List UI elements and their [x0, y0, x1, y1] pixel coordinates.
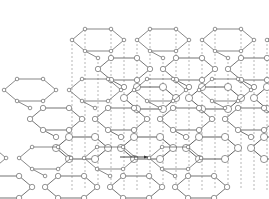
atom-node — [104, 144, 111, 151]
atom-node — [235, 105, 240, 110]
atom-node — [93, 106, 97, 110]
atom-node — [109, 49, 113, 53]
atom-node — [261, 105, 266, 110]
lattice-diagram — [0, 0, 269, 199]
atom-node — [159, 184, 164, 189]
atom-node — [160, 145, 164, 149]
atom-node — [95, 145, 99, 149]
atom-node — [134, 77, 139, 82]
atom-node — [81, 173, 86, 178]
atom-node — [144, 116, 149, 121]
atom-node — [212, 66, 217, 71]
atom-node — [263, 83, 269, 90]
atom-node — [221, 155, 228, 162]
atom-node — [156, 155, 163, 162]
atom-node — [148, 49, 152, 53]
atom-node — [145, 77, 149, 81]
atom-node — [121, 167, 125, 171]
atom-node — [70, 38, 74, 42]
atom-node — [158, 106, 162, 110]
atom-node — [16, 173, 21, 178]
atom-node — [40, 105, 45, 110]
atom-node — [170, 105, 175, 110]
atom-node — [105, 127, 110, 132]
atom-node — [80, 99, 84, 103]
atom-node — [82, 156, 86, 160]
atom-node — [160, 66, 165, 71]
atom-node — [196, 105, 201, 110]
atom-node — [222, 116, 227, 121]
atom-node — [130, 133, 137, 140]
atom-node — [80, 77, 84, 81]
atom-node — [121, 145, 125, 149]
atom-node — [187, 38, 191, 42]
atom-node — [56, 145, 60, 149]
atom-node — [94, 184, 99, 189]
atom-node — [132, 88, 136, 92]
atom-node — [95, 66, 100, 71]
atom-node — [250, 94, 257, 101]
atom-node — [174, 27, 178, 31]
atom-node — [210, 99, 214, 103]
atom-node — [183, 134, 188, 139]
atom-node — [106, 99, 110, 103]
atom-node — [131, 105, 136, 110]
atom-node — [56, 167, 60, 171]
atom-node — [184, 88, 188, 92]
atom-node — [41, 99, 45, 103]
atom-node — [108, 55, 113, 60]
atom-node — [83, 49, 87, 53]
atom-node — [185, 94, 192, 101]
atom-node — [30, 145, 34, 149]
atom-node — [173, 55, 178, 60]
atom-node — [223, 106, 227, 110]
atom-node — [239, 27, 243, 31]
atom-node — [79, 116, 84, 121]
atom-node — [107, 184, 112, 189]
atom-node — [260, 133, 267, 140]
atom-node — [226, 56, 230, 60]
atom-node — [264, 77, 269, 82]
atom-node — [213, 27, 217, 31]
atom-node — [106, 77, 110, 81]
atom-node — [172, 184, 177, 189]
atom-node — [15, 77, 19, 81]
atom-node — [174, 49, 178, 53]
atom-node — [173, 174, 177, 178]
atom-node — [120, 195, 125, 199]
atom-node — [171, 77, 175, 81]
atom-node — [224, 184, 229, 189]
atom-node — [43, 174, 47, 178]
atom-node — [224, 83, 231, 90]
atom-node — [213, 49, 217, 53]
atom-node — [264, 55, 269, 60]
atom-node — [96, 56, 100, 60]
atom-node — [66, 127, 71, 132]
atom-node — [234, 144, 241, 151]
atom-node — [211, 173, 216, 178]
atom-node — [83, 27, 87, 31]
atom-node — [92, 116, 97, 121]
atom-node — [118, 134, 123, 139]
atom-node — [225, 66, 230, 71]
atom-node — [185, 195, 190, 199]
atom-node — [67, 88, 71, 92]
atom-node — [156, 133, 163, 140]
atom-node — [161, 56, 165, 60]
atom-node — [147, 66, 152, 71]
atom-node — [122, 38, 126, 42]
atom-node — [66, 105, 71, 110]
atom-node — [199, 156, 203, 160]
atom-node — [252, 38, 256, 42]
atom-node — [145, 99, 149, 103]
atom-node — [40, 127, 45, 132]
atom-node — [186, 167, 190, 171]
atom-node — [15, 99, 19, 103]
atom-node — [186, 145, 190, 149]
atom-node — [41, 77, 45, 81]
atom-node — [17, 156, 21, 160]
atom-node — [211, 195, 216, 199]
atom-node — [247, 144, 254, 151]
atom-node — [135, 38, 139, 42]
atom-node — [209, 116, 214, 121]
